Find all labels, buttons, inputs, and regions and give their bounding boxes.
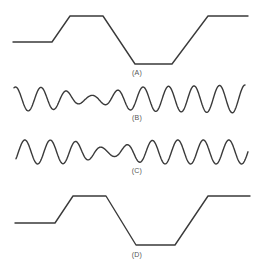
waveform-c <box>16 140 248 164</box>
waveform-a <box>13 16 248 64</box>
waveform-b <box>14 85 245 113</box>
label-a: (A) <box>132 69 142 76</box>
waveform-d <box>15 196 250 245</box>
waveform-diagram <box>0 0 264 271</box>
label-c: (C) <box>132 167 142 174</box>
label-d: (D) <box>132 251 142 258</box>
label-b: (B) <box>132 114 142 121</box>
